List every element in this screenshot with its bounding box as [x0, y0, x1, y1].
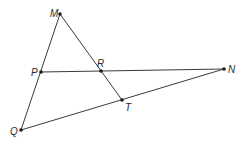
label-T: T [125, 102, 132, 113]
diagram-canvas: M P R N T Q [0, 0, 246, 143]
label-M: M [50, 8, 59, 19]
label-R: R [97, 58, 104, 69]
point-Q [19, 128, 23, 132]
point-R [99, 69, 103, 73]
point-M [58, 12, 62, 16]
label-Q: Q [10, 126, 18, 137]
segment-MT [60, 14, 122, 100]
segment-PN [41, 69, 224, 72]
point-P [39, 70, 43, 74]
point-T [120, 98, 124, 102]
point-N [222, 67, 226, 71]
geometry-diagram: M P R N T Q [0, 0, 246, 143]
label-N: N [228, 64, 236, 75]
label-P: P [31, 67, 38, 78]
